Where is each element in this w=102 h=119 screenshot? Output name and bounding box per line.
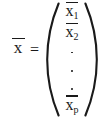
vector-entry-p: xp xyxy=(66,95,79,117)
variable-x-lhs: x xyxy=(14,40,23,56)
column-vector: x1 x2 xp xyxy=(46,2,98,117)
vertical-ellipsis xyxy=(71,52,73,91)
entry-p-body: xp xyxy=(66,97,79,112)
variable-x-entry-p: x xyxy=(66,97,74,112)
entry-1-body: x1 xyxy=(66,3,79,18)
mean-vector-symbol: x xyxy=(8,38,28,62)
vector-entries: x1 x2 xp xyxy=(57,2,87,117)
subscript-entry-p: p xyxy=(74,105,79,115)
vector-entry-2: x2 xyxy=(66,23,79,45)
ellipsis-dot xyxy=(71,70,73,72)
ellipsis-dot xyxy=(71,52,73,54)
ellipsis-dot xyxy=(71,88,73,90)
vector-entry-1: x1 xyxy=(66,2,79,24)
subscript-entry-2: 2 xyxy=(74,32,79,42)
right-parenthesis xyxy=(84,2,98,117)
equals-sign: = xyxy=(30,41,39,59)
equation-figure: x = x1 x2 xyxy=(0,0,102,119)
variable-x-entry-2: x xyxy=(66,24,74,39)
variable-x-entry-1: x xyxy=(66,3,74,18)
entry-2-body: x2 xyxy=(66,24,79,39)
subscript-entry-1: 1 xyxy=(74,11,79,21)
